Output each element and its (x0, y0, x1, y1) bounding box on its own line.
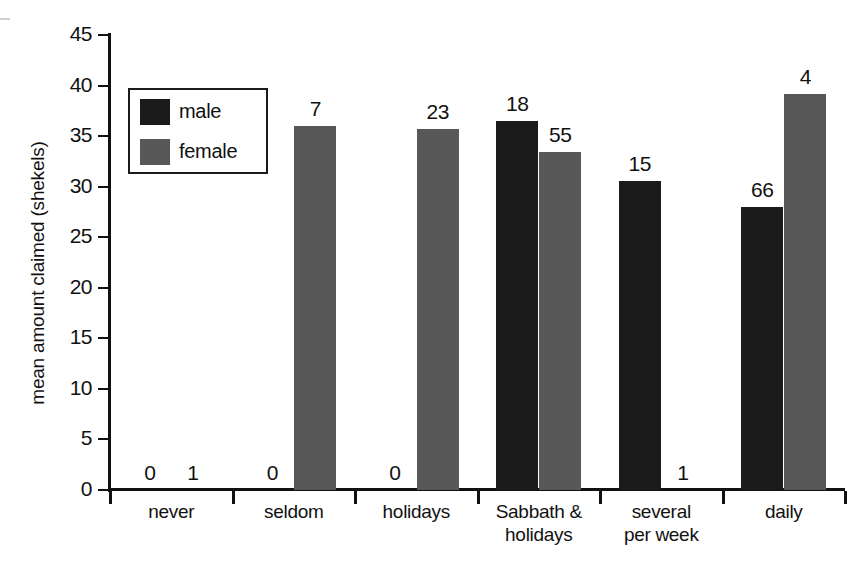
bar-label-male-several-per-week: 15 (607, 152, 673, 176)
x-label-line: never (100, 500, 243, 523)
y-tick-label-wrap-20: 20 (40, 275, 92, 297)
bar-female-daily (784, 94, 826, 490)
y-tick-label-35: 35 (46, 123, 92, 147)
y-tick-label-0: 0 (46, 477, 92, 501)
y-tick-label-wrap-30: 30 (40, 174, 92, 196)
x-label-never: never (100, 500, 243, 523)
y-tick-label-wrap-35: 35 (40, 123, 92, 145)
bar-label-male-seldom: 0 (239, 461, 305, 485)
x-label-line: daily (713, 500, 856, 523)
y-tick-label-15: 15 (46, 325, 92, 349)
bar-label-male-holidays: 0 (362, 461, 428, 485)
legend-label-male: male (179, 100, 221, 123)
bar-male-several-per-week (619, 181, 661, 490)
y-tick-label-30: 30 (46, 174, 92, 198)
x-label-holidays: holidays (345, 500, 488, 523)
legend-label-female: female (179, 140, 237, 163)
bar-chart-figure: mean amount claimed (shekels) 0510152025… (0, 0, 862, 566)
bar-female-sabbath-holidays (539, 152, 581, 490)
scan-artifact (0, 18, 10, 20)
y-tick-label-45: 45 (46, 22, 92, 46)
bar-label-female-never: 1 (160, 461, 226, 485)
bar-label-female-several-per-week: 1 (650, 461, 716, 485)
x-label-line: seldom (223, 500, 366, 523)
bar-label-female-sabbath-holidays: 55 (527, 123, 593, 147)
y-tick-label-20: 20 (46, 275, 92, 299)
x-label-line: holidays (345, 500, 488, 523)
bar-female-holidays (417, 129, 459, 490)
bar-male-daily (741, 207, 783, 490)
x-label-sabbath-holidays: Sabbath &holidays (468, 500, 611, 546)
y-tick-label-25: 25 (46, 224, 92, 248)
bar-label-female-daily: 4 (772, 65, 838, 89)
y-tick-label-wrap-25: 25 (40, 224, 92, 246)
y-tick-35 (98, 135, 110, 137)
y-tick-40 (98, 85, 110, 87)
y-tick-label-40: 40 (46, 73, 92, 97)
y-tick-label-wrap-0: 0 (40, 477, 92, 499)
y-tick-label-10: 10 (46, 376, 92, 400)
x-label-line: holidays (468, 523, 611, 546)
bar-label-female-holidays: 23 (405, 100, 471, 124)
y-tick-label-wrap-40: 40 (40, 73, 92, 95)
y-tick-5 (98, 438, 110, 440)
y-tick-10 (98, 388, 110, 390)
y-tick-45 (98, 34, 110, 36)
legend-swatch-male-icon (140, 99, 170, 125)
legend-swatch-female-icon (140, 139, 170, 165)
x-label-daily: daily (713, 500, 856, 523)
x-label-line: per week (590, 523, 733, 546)
bar-male-sabbath-holidays (496, 121, 538, 490)
legend-item-male: male (140, 95, 221, 128)
legend-item-female: female (140, 135, 237, 168)
x-label-line: several (590, 500, 733, 523)
y-tick-30 (98, 186, 110, 188)
x-label-seldom: seldom (223, 500, 366, 523)
y-tick-label-wrap-45: 45 (40, 22, 92, 44)
y-tick-label-wrap-5: 5 (40, 426, 92, 448)
x-label-several-per-week: severalper week (590, 500, 733, 546)
bar-female-seldom (294, 126, 336, 490)
bar-label-female-seldom: 7 (282, 97, 348, 121)
y-tick-label-wrap-15: 15 (40, 325, 92, 347)
y-tick-15 (98, 337, 110, 339)
x-label-line: Sabbath & (468, 500, 611, 523)
y-tick-20 (98, 287, 110, 289)
bar-label-male-sabbath-holidays: 18 (484, 92, 550, 116)
bar-label-male-daily: 66 (729, 178, 795, 202)
y-tick-label-5: 5 (46, 426, 92, 450)
legend: male female (128, 88, 268, 174)
y-tick-label-wrap-10: 10 (40, 376, 92, 398)
y-tick-25 (98, 236, 110, 238)
